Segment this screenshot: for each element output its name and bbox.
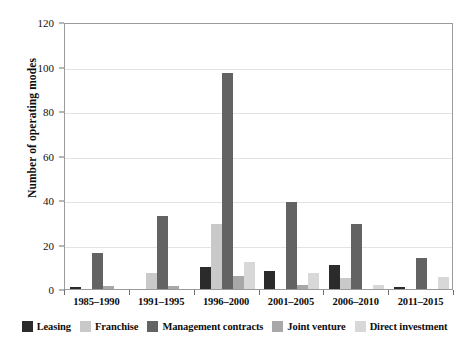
x-tick-label: 2006–2010 xyxy=(333,296,379,307)
x-tick-mark xyxy=(323,290,324,295)
x-tick-label: 1991–1995 xyxy=(138,296,184,307)
y-tick-label: 0 xyxy=(14,284,54,296)
bar[interactable] xyxy=(244,262,255,289)
legend-swatch-icon xyxy=(355,321,366,332)
x-tick-label: 1985–1990 xyxy=(73,296,119,307)
bar[interactable] xyxy=(286,202,297,289)
y-tick-label: 60 xyxy=(14,151,54,163)
legend-item[interactable]: Leasing xyxy=(22,321,71,332)
legend-label: Joint venture xyxy=(287,321,345,332)
bar-chart-figure: Number of operating modes 02040608010012… xyxy=(0,0,469,351)
bar-group xyxy=(389,24,454,289)
bar[interactable] xyxy=(340,278,351,289)
bar[interactable] xyxy=(297,285,308,289)
x-tick-mark xyxy=(453,290,454,295)
legend-swatch-icon xyxy=(22,321,33,332)
legend-swatch-icon xyxy=(272,321,283,332)
plot-area xyxy=(64,23,453,290)
bar-group xyxy=(260,24,325,289)
bar[interactable] xyxy=(157,216,168,289)
bar[interactable] xyxy=(70,287,81,289)
x-tick-mark xyxy=(259,290,260,295)
x-tick-mark xyxy=(64,290,65,295)
y-tick-label: 40 xyxy=(14,195,54,207)
bar[interactable] xyxy=(211,224,222,289)
bar[interactable] xyxy=(146,273,157,289)
legend-item[interactable]: Joint venture xyxy=(272,321,345,332)
legend-label: Franchise xyxy=(95,321,138,332)
bar[interactable] xyxy=(351,224,362,289)
x-tick-label: 1996–2000 xyxy=(203,296,249,307)
bar[interactable] xyxy=(200,267,211,289)
x-tick-mark xyxy=(194,290,195,295)
bar-series-container xyxy=(65,24,452,289)
legend-swatch-icon xyxy=(80,321,91,332)
bar-group xyxy=(65,24,130,289)
bar[interactable] xyxy=(308,273,319,289)
chart-legend: LeasingFranchiseManagement contractsJoin… xyxy=(0,321,469,332)
legend-label: Leasing xyxy=(37,321,71,332)
bar[interactable] xyxy=(373,285,384,289)
x-tick-mark xyxy=(388,290,389,295)
legend-label: Direct investment xyxy=(370,321,448,332)
legend-item[interactable]: Management contracts xyxy=(147,321,263,332)
y-tick-label: 100 xyxy=(14,62,54,74)
bar[interactable] xyxy=(329,265,340,289)
bar[interactable] xyxy=(416,258,427,289)
bar[interactable] xyxy=(222,73,233,289)
y-tick-label: 80 xyxy=(14,106,54,118)
legend-item[interactable]: Direct investment xyxy=(355,321,448,332)
legend-swatch-icon xyxy=(147,321,158,332)
bar[interactable] xyxy=(394,287,405,289)
bar[interactable] xyxy=(103,286,114,289)
bar[interactable] xyxy=(233,276,244,289)
x-tick-label: 2001–2005 xyxy=(268,296,314,307)
y-tick-label: 20 xyxy=(14,240,54,252)
legend-label: Management contracts xyxy=(162,321,263,332)
bar-group xyxy=(195,24,260,289)
bar[interactable] xyxy=(438,277,449,289)
y-axis-ticks: 020406080100120 xyxy=(0,23,64,290)
bar[interactable] xyxy=(92,253,103,289)
bar[interactable] xyxy=(264,271,275,289)
x-tick-label: 2011–2015 xyxy=(398,296,444,307)
bar-group xyxy=(130,24,195,289)
y-tick-label: 120 xyxy=(14,17,54,29)
legend-item[interactable]: Franchise xyxy=(80,321,138,332)
bar-group xyxy=(324,24,389,289)
x-tick-mark xyxy=(129,290,130,295)
bar[interactable] xyxy=(168,286,179,289)
